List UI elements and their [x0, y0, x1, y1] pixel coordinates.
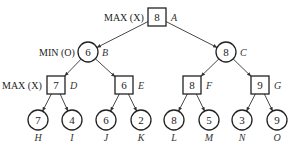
node-M: 5M [199, 110, 219, 143]
node-label: A [170, 12, 178, 23]
node-H: 7H [28, 110, 48, 143]
node-E: 6E [115, 76, 144, 94]
node-K: 2K [131, 110, 151, 143]
node-I: 4I [62, 110, 82, 143]
edge-G-N [247, 94, 256, 111]
node-value: 6 [121, 79, 127, 91]
node-J: 6J [96, 110, 116, 143]
edge-G-O [264, 94, 272, 111]
node-label: I [69, 132, 74, 143]
node-label: E [137, 80, 144, 91]
node-value: 8 [223, 46, 229, 58]
edge-C-F [201, 59, 219, 76]
node-value: 9 [274, 114, 280, 126]
node-value: 6 [85, 46, 91, 58]
node-label: G [274, 80, 281, 91]
node-A: 8A [148, 8, 178, 26]
node-L: 8L [164, 110, 184, 143]
edge-F-L [179, 94, 188, 111]
node-label: F [205, 80, 213, 91]
node-value: 8 [154, 11, 160, 23]
node-label: D [69, 80, 78, 91]
edge-A-C [166, 22, 217, 48]
node-value: 7 [53, 79, 59, 91]
node-value: 7 [35, 114, 41, 126]
role-label-max-root: MAX (X) [104, 12, 144, 24]
node-value: 8 [189, 79, 195, 91]
edge-E-J [111, 94, 120, 111]
edge-B-D [65, 59, 81, 76]
node-label: O [273, 132, 280, 143]
node-label: M [204, 132, 214, 143]
node-label: B [102, 47, 108, 58]
node-O: 9O [267, 110, 287, 143]
node-label: K [137, 132, 146, 143]
edge-D-I [60, 94, 68, 111]
node-F: 8F [183, 76, 213, 94]
node-value: 4 [69, 114, 75, 126]
node-value: 2 [138, 114, 144, 126]
node-B: 6B [78, 42, 108, 62]
minimax-tree-diagram: 8A6B8C7D6E8F9G7H4I6J2K8L5M3N9O MAX (X) M… [0, 0, 290, 157]
node-label: J [104, 132, 109, 143]
node-label: H [33, 132, 42, 143]
edge-F-M [196, 94, 204, 111]
edge-B-E [95, 59, 115, 77]
node-value: 9 [257, 79, 263, 91]
node-label: L [170, 132, 177, 143]
edge-C-G [233, 59, 251, 76]
node-value: 3 [239, 114, 245, 126]
node-value: 5 [206, 114, 212, 126]
tree-edges [43, 22, 273, 112]
node-label: C [240, 47, 247, 58]
edge-E-K [128, 94, 136, 111]
tree-nodes: 8A6B8C7D6E8F9G7H4I6J2K8L5M3N9O [28, 8, 287, 143]
node-value: 8 [171, 114, 177, 126]
role-label-max-level2: MAX (X) [2, 80, 42, 92]
edge-A-B [97, 22, 148, 48]
role-label-min: MIN (O) [39, 47, 75, 59]
node-label: N [238, 132, 247, 143]
node-value: 6 [103, 114, 109, 126]
node-C: 8C [216, 42, 247, 62]
node-D: 7D [47, 76, 78, 94]
node-N: 3N [232, 110, 252, 143]
edge-D-H [43, 94, 52, 111]
node-G: 9G [251, 76, 281, 94]
